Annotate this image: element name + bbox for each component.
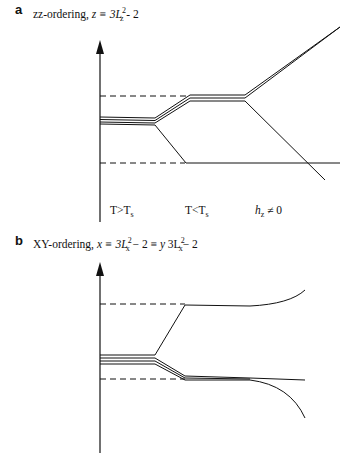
x-label-t-below: T<Ts: [185, 204, 209, 219]
panel-b-title: XY-ordering, x ≡ 3L2x − 2 ≡ y 3L2x− 2: [33, 236, 198, 253]
panel-b-letter: b: [15, 233, 23, 248]
x-label-hz: hz ≠ 0: [255, 204, 282, 219]
x-label-text-1: T<T: [185, 204, 206, 216]
x-label-hz-suffix: ≠ 0: [264, 204, 282, 216]
panel-b-levels: [100, 290, 305, 418]
x-label-text-0: T>T: [110, 204, 131, 216]
panel-a-levels: [100, 27, 340, 180]
x-label-t-above: T>Ts: [110, 204, 134, 219]
panel-b-title-prefix: XY-ordering,: [33, 238, 97, 250]
panel-b-title-mid: − 2 ≡: [130, 238, 160, 250]
x-label-sub-1: s: [206, 210, 209, 219]
panel-b-title-suffix: − 2: [183, 238, 198, 250]
panel-a-axis: [96, 40, 104, 222]
panel-b-title-formula-1: x ≡ 3L: [97, 238, 128, 250]
x-label-sub-0: s: [131, 210, 134, 219]
